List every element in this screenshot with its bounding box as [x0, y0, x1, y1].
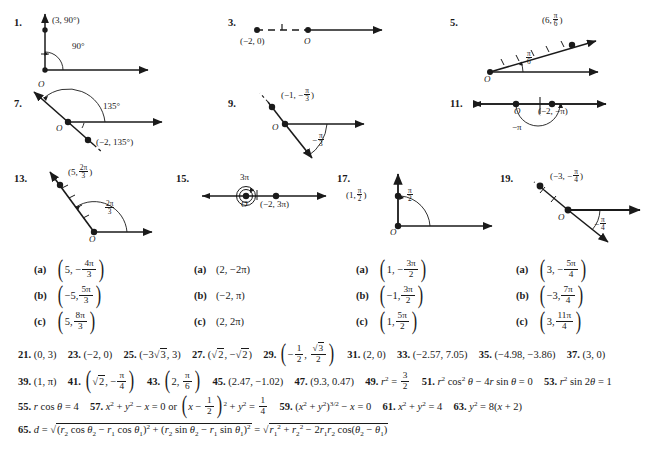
answer-value: (2.47, −1.02): [228, 376, 283, 387]
answer-number: 21.: [18, 349, 31, 360]
answer-number: 51.: [422, 376, 435, 387]
answer-number: 55.: [18, 401, 31, 412]
choice-item: (b) (−2, π): [194, 282, 250, 308]
answer-value-61: x2 + y2 = 4: [398, 401, 442, 412]
problem-9-number: 9.: [228, 93, 236, 111]
diagram-17-angle-den: 2: [407, 194, 413, 202]
diagram-19: (−3, −π4) −π4 O: [518, 168, 658, 244]
diagram-15-point-label: (−2, 3π): [260, 199, 289, 209]
diagram-5-point-r: (6,: [542, 15, 552, 25]
choice-fraction: 4π3: [82, 259, 95, 279]
diagram-1: (3, 90°) 90° O: [38, 8, 168, 80]
choice-value: (−2, π): [216, 290, 245, 301]
diagram-17-point-label: (1,π2): [346, 187, 366, 203]
diagram-1-origin-label: O: [38, 79, 45, 89]
problem-15-number: 15.: [176, 168, 189, 186]
answer-value-55: r cos θ = 4: [34, 401, 79, 412]
answer-value-57: x2 + y2 − x = 0 or (x − 12)2 + y2 = 14: [106, 401, 268, 412]
diagram-7-origin-label: O: [56, 123, 63, 133]
choice-item: (a) ( 1, − 3π2 ): [356, 256, 427, 282]
answer-number: 25.: [123, 349, 136, 360]
diagram-9-origin-label: O: [272, 122, 279, 132]
choice-tag: (b): [194, 290, 216, 301]
answer-value: (0, 3): [34, 349, 57, 360]
diagram-13-origin-label: O: [89, 234, 96, 244]
diagram-5-angle-num: π: [526, 50, 532, 57]
choice-item: (c) ( 1, 5π2 ): [356, 308, 427, 334]
choices-group-13: (a) ( 5, − 4π3 ) (b) ( −5, 5π3 ) (c) ( 5…: [34, 256, 105, 334]
choice-item: (c) (2, 2π): [194, 308, 250, 334]
answer-number: 23.: [68, 349, 81, 360]
choice-fraction: 11π4: [556, 311, 574, 331]
diagram-5-origin-label: O: [484, 74, 491, 84]
diagram-19-origin-label: O: [558, 212, 565, 222]
choice-fraction: 5π2: [396, 311, 409, 331]
answer-value: (1, π): [34, 376, 57, 387]
diagram-19-angle-label: −π4: [594, 216, 607, 232]
diagram-5-point-num: π: [553, 12, 559, 19]
choice-item: (c) ( 3, 11π4 ): [516, 308, 587, 334]
diagram-5-angle-label: π6: [525, 50, 533, 66]
diagram-17-point-r: (1,: [346, 190, 356, 200]
answer-value-51: r2 cos2 θ − 4r sin θ = 0: [437, 376, 532, 387]
answer-number: 63.: [454, 401, 467, 412]
diagram-9-angle-den: 3: [318, 139, 324, 147]
choice-fraction: 5π4: [564, 259, 577, 279]
choice-fraction: 5π3: [79, 285, 92, 305]
choice-fraction: 7π4: [561, 285, 574, 305]
answer-value: (3, 0): [582, 349, 605, 360]
choice-sign: −: [76, 264, 82, 275]
diagram-15-origin-label: O: [241, 199, 248, 209]
choice-tag: (b): [356, 290, 378, 301]
diagram-15: 3π O (−2, 3π): [198, 178, 338, 218]
diagram-13-point-num: 2π: [79, 164, 88, 171]
diagram-3-origin-label: O: [304, 36, 311, 46]
answer-number: 57.: [90, 401, 103, 412]
diagram-11: O (−2, −π) −π: [470, 92, 630, 142]
problem-7-number: 7.: [14, 93, 22, 111]
answer-value-63: y2 = 8(x + 2): [469, 401, 522, 412]
diagram-13-angle-den: 3: [105, 207, 114, 215]
choice-tag: (b): [516, 290, 538, 301]
diagram-11-point-label: (−2, −π): [538, 106, 568, 116]
answer-number: 35.: [479, 349, 492, 360]
choice-tag: (a): [356, 264, 378, 275]
diagram-7-angle-label: 135°: [103, 101, 120, 111]
problem-1-number: 1.: [14, 12, 22, 30]
problem-3-number: 3.: [228, 12, 236, 30]
diagram-9-angle-sign: −: [312, 135, 317, 145]
answer-number: 45.: [213, 376, 226, 387]
answer-number: 65.: [18, 424, 31, 435]
choices-group-15: (a) (2, −2π) (b) (−2, π) (c) (2, 2π): [194, 256, 250, 334]
diagram-17-angle-num: π: [407, 187, 413, 194]
diagram-7-point-label: (−2, 135°): [96, 137, 133, 147]
choice-tag: (c): [356, 316, 378, 327]
choice-tag: (a): [516, 264, 538, 275]
answer-value: (−2, 0): [84, 349, 113, 360]
answer-number: 61.: [382, 401, 395, 412]
diagram-5-point-den: 6: [553, 19, 559, 27]
diagram-3-point-label: (−2, 0): [240, 36, 265, 46]
choice-tag: (c): [516, 316, 538, 327]
choices-group-17: (a) ( 1, − 3π2 ) (b) ( −1, 3π2 ) (c) ( 1…: [356, 256, 427, 334]
diagram-5-point-label: (6,π6): [542, 12, 562, 28]
answer-value: (−4.98, −3.86): [495, 349, 556, 360]
diagram-9-point-r: (−1, −: [281, 90, 303, 100]
choice-item: (b) ( −1, 3π2 ): [356, 282, 427, 308]
answer-number: 47.: [294, 376, 307, 387]
choice-fraction: 3π2: [404, 259, 417, 279]
answer-line-3: 55. r cos θ = 4 57. x2 + y2 − x = 0 or (…: [18, 396, 522, 416]
answer-value-53: r2 sin 2θ = 1: [560, 376, 612, 387]
diagram-17-origin-label: O: [390, 227, 397, 237]
diagram-15-angle-label: 3π: [240, 172, 249, 182]
choice-tag: (a): [194, 264, 216, 275]
diagram-1-point-label: (3, 90°): [52, 15, 80, 25]
answer-number: 43.: [147, 376, 160, 387]
diagram-13-point-label: (5,2π3): [68, 164, 92, 180]
choice-value: (2, 2π): [216, 316, 244, 327]
choice-fraction: 8π3: [74, 311, 87, 331]
choice-r: 1,: [387, 316, 395, 327]
choice-tag: (a): [34, 264, 56, 275]
diagram-9-point-label: (−1, −π3): [281, 87, 314, 103]
choice-r: −3,: [547, 290, 561, 301]
